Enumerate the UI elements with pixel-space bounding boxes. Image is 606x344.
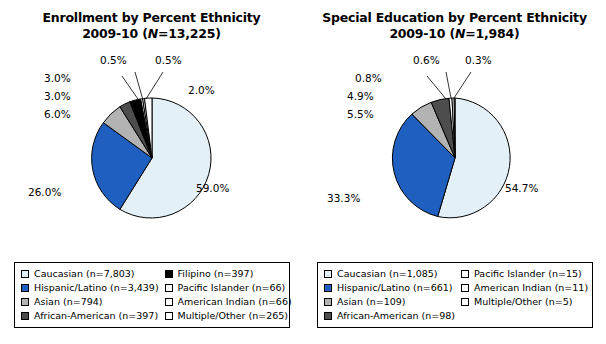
legend-label: Hispanic/Latino (n=3,439): [34, 282, 159, 294]
leader-line-american-indian: [446, 72, 451, 98]
legend-label: Hispanic/Latino (n=661): [337, 282, 453, 294]
legend-swatch-caucasian-icon: [21, 270, 29, 278]
legend-item: American Indian (n=66): [165, 296, 292, 308]
pie-label-asian: 5.5%: [347, 108, 374, 120]
legend-item: Pacific Islander (n=15): [461, 268, 588, 280]
pie-label-african-american: 4.9%: [347, 90, 374, 102]
legend-item: African-American (n=98): [324, 310, 455, 322]
legend-item: Caucasian (n=7,803): [21, 268, 159, 280]
chart-title-line2: 2009-10 (N=13,225): [0, 26, 303, 42]
legend-swatch-hispanic-icon: [324, 284, 332, 292]
chart-panel-special-education: Special Education by Percent Ethnicity 2…: [303, 0, 606, 344]
chart-title-line1: Enrollment by Percent Ethnicity: [42, 10, 260, 25]
legend-label: Caucasian (n=7,803): [34, 268, 135, 280]
pie-svg-special-education: [303, 46, 606, 246]
legend-label: Pacific Islander (n=15): [474, 268, 582, 280]
pie-label-hispanic: 33.3%: [327, 192, 360, 204]
legend-swatch-asian-icon: [324, 298, 332, 306]
legend-label: Multiple/Other (n=265): [178, 310, 288, 322]
legend-label: American Indian (n=11): [474, 282, 588, 294]
legend-item: Hispanic/Latino (n=3,439): [21, 282, 159, 294]
legend-swatch-caucasian-icon: [324, 270, 332, 278]
pie-chart-enrollment: 59.0% 26.0% 6.0% 3.0% 3.0% 0.5% 0.5% 2.0…: [0, 46, 303, 246]
legend-swatch-multiple-other-icon: [165, 312, 173, 320]
chart-title-line1: Special Education by Percent Ethnicity: [322, 10, 587, 25]
pie-label-pacific-islander: 0.5%: [100, 54, 127, 66]
legend-item: American Indian (n=11): [461, 282, 588, 294]
legend-swatch-filipino-icon: [165, 270, 173, 278]
leader-line-pacific-islander: [427, 76, 446, 99]
chart-title-enrollment: Enrollment by Percent Ethnicity 2009-10 …: [0, 10, 303, 42]
legend-label: African-American (n=397): [34, 310, 158, 322]
chart-title-special-education: Special Education by Percent Ethnicity 2…: [303, 10, 606, 42]
legend-label: American Indian (n=66): [178, 296, 292, 308]
chart-panel-enrollment: Enrollment by Percent Ethnicity 2009-10 …: [0, 0, 303, 344]
legend-enrollment: Caucasian (n=7,803) Filipino (n=397) His…: [14, 262, 290, 328]
legend-swatch-african-american-icon: [21, 312, 29, 320]
legend-item: Pacific Islander (n=66): [165, 282, 292, 294]
legend-item: Multiple/Other (n=265): [165, 310, 292, 322]
legend-swatch-african-american-icon: [324, 312, 332, 320]
legend-swatch-asian-icon: [21, 298, 29, 306]
legend-swatch-pacific-islander-icon: [165, 284, 173, 292]
pie-label-caucasian: 54.7%: [505, 182, 538, 194]
legend-label: African-American (n=98): [337, 310, 455, 322]
pie-label-asian: 6.0%: [44, 108, 71, 120]
leader-line-pacific-islander: [135, 72, 143, 100]
figure-container: Enrollment by Percent Ethnicity 2009-10 …: [0, 0, 606, 344]
legend-swatch-hispanic-icon: [21, 284, 29, 292]
pie-label-american-indian: 0.6%: [413, 54, 440, 66]
pie-label-filipino: 3.0%: [44, 72, 71, 84]
pie-label-african-american: 3.0%: [44, 90, 71, 102]
pie-label-caucasian: 59.0%: [196, 182, 229, 194]
legend-label: Caucasian (n=1,085): [337, 268, 438, 280]
legend-swatch-pacific-islander-icon: [461, 270, 469, 278]
legend-swatch-multiple-other-icon: [461, 298, 469, 306]
legend-item: Multiple/Other (n=5): [461, 296, 588, 308]
pie-label-hispanic: 26.0%: [28, 186, 61, 198]
leader-line-american-indian: [146, 72, 163, 99]
legend-swatch-american-indian-icon: [461, 284, 469, 292]
pie-chart-special-education: 54.7% 33.3% 5.5% 4.9% 0.8% 0.6% 0.3%: [303, 46, 606, 246]
legend-label: Asian (n=794): [34, 296, 102, 308]
pie-label-multiple-other: 2.0%: [188, 84, 215, 96]
legend-label: Asian (n=109): [337, 296, 405, 308]
pie-label-american-indian: 0.5%: [155, 54, 182, 66]
legend-swatch-american-indian-icon: [165, 298, 173, 306]
legend-label: Multiple/Other (n=5): [474, 296, 572, 308]
legend-special-education: Caucasian (n=1,085) Pacific Islander (n=…: [317, 262, 593, 328]
pie-label-pacific-islander: 0.8%: [355, 72, 382, 84]
chart-title-line2: 2009-10 (N=1,984): [303, 26, 606, 42]
legend-item: Caucasian (n=1,085): [324, 268, 455, 280]
legend-item: Filipino (n=397): [165, 268, 292, 280]
legend-item-empty: [461, 310, 588, 322]
pie-label-multiple-other: 0.3%: [465, 54, 492, 66]
legend-item: Hispanic/Latino (n=661): [324, 282, 455, 294]
legend-item: African-American (n=397): [21, 310, 159, 322]
legend-label: Pacific Islander (n=66): [178, 282, 286, 294]
legend-item: Asian (n=794): [21, 296, 159, 308]
legend-item: Asian (n=109): [324, 296, 455, 308]
legend-label: Filipino (n=397): [178, 268, 254, 280]
leader-line-multiple-other: [454, 72, 471, 98]
